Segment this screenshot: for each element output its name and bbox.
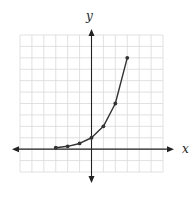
axes xyxy=(12,29,174,183)
data-point xyxy=(54,146,58,150)
data-point xyxy=(90,136,94,140)
exponential-graph: x y xyxy=(0,0,194,200)
y-axis-label: y xyxy=(85,9,93,23)
data-point xyxy=(66,144,70,148)
arrow-right-icon xyxy=(167,146,174,152)
data-point xyxy=(125,56,129,60)
x-axis-label: x xyxy=(182,142,189,156)
data-point xyxy=(102,124,106,128)
arrow-up-icon xyxy=(89,29,95,36)
arrow-down-icon xyxy=(89,176,95,183)
data-point xyxy=(113,102,117,106)
arrow-left-icon xyxy=(12,146,19,152)
data-point xyxy=(78,142,82,146)
